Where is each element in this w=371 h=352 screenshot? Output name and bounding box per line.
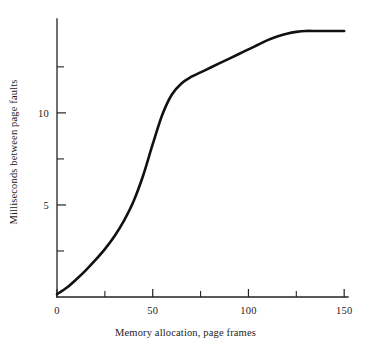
data-series-line xyxy=(57,31,344,294)
y-ticks-group xyxy=(57,67,66,251)
x-axis-title: Memory allocation, page frames xyxy=(0,327,371,338)
figure-page-fault-curve: 050100150 510 Memory allocation, page fr… xyxy=(0,0,371,352)
chart-plot-area xyxy=(0,0,371,352)
x-tick-label: 50 xyxy=(147,305,158,316)
x-tick-label: 150 xyxy=(336,305,352,316)
x-ticks-group xyxy=(57,289,344,297)
data-curve-group xyxy=(57,31,344,294)
x-tick-label: 0 xyxy=(54,305,59,316)
x-tick-label: 100 xyxy=(240,305,256,316)
y-axis-title: Milliseconds between page faults xyxy=(8,79,19,224)
